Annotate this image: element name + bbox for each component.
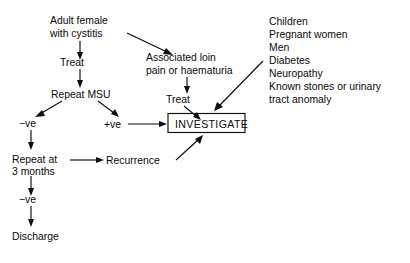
- connector-associated-to-treat-right: [184, 77, 190, 94]
- risk-list-item-1: Pregnant women: [269, 29, 348, 40]
- node-associated-line1: Associated loin: [146, 52, 216, 63]
- connector-repeat-msu-to-positive: [98, 101, 119, 117]
- connector-repeat-at-to-recurrence: [70, 157, 104, 163]
- connector-negative-second-to-discharge: [28, 206, 34, 227]
- risk-list-item-0: Children: [269, 16, 308, 27]
- risk-list-item-5: Known stones or urinary: [269, 81, 382, 92]
- node-start-line2: with cystitis: [49, 28, 103, 39]
- node-investigate-label: INVESTIGATE: [175, 118, 248, 130]
- risk-list-item-2: Men: [269, 42, 289, 53]
- flowchart-diagram: Adult female with cystitis Treat Repeat …: [0, 0, 410, 263]
- node-repeat-msu: Repeat MSU: [51, 89, 110, 100]
- risk-list-item-4: Neuropathy: [269, 68, 324, 79]
- node-repeat-at-line2: 3 months: [12, 166, 55, 177]
- node-recurrence: Recurrence: [106, 155, 160, 166]
- flowchart-canvas: Adult female with cystitis Treat Repeat …: [0, 0, 410, 263]
- risk-list-item-6: tract anomaly: [269, 94, 332, 105]
- node-start-line1: Adult female: [50, 15, 108, 26]
- connector-repeat-msu-to-negative: [35, 101, 62, 117]
- connector-positive-to-investigate: [128, 121, 167, 127]
- node-discharge: Discharge: [12, 231, 59, 242]
- risk-factor-list: Children Pregnant women Men Diabetes Neu…: [269, 16, 382, 105]
- risk-list-item-3: Diabetes: [269, 55, 310, 66]
- connector-treat-to-repeat-msu: [77, 69, 83, 88]
- node-treat-left: Treat: [60, 57, 84, 68]
- node-associated-line2: pain or haematuria: [146, 65, 233, 76]
- node-positive: +ve: [104, 119, 121, 130]
- connector-recurrence-to-investigate: [176, 135, 203, 160]
- node-negative-first: −ve: [19, 118, 36, 129]
- connector-repeat-at-to-negative-second: [28, 176, 34, 196]
- node-treat-right: Treat: [166, 94, 190, 105]
- connector-negative-to-repeat-at: [28, 130, 34, 150]
- node-negative-second: −ve: [19, 194, 36, 205]
- node-repeat-at-line1: Repeat at: [12, 154, 57, 165]
